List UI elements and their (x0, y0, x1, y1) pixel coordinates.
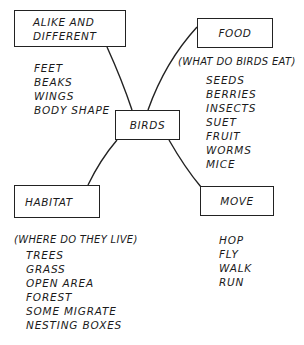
node-label: MOVE (220, 195, 254, 207)
node-label-line-1: ALIKE AND (33, 15, 95, 29)
edge-birds-move (169, 140, 201, 187)
list-item: FEET (34, 61, 110, 75)
list-item: WINGS (34, 89, 110, 103)
node-label: HABITAT (25, 196, 73, 208)
node-move: MOVE (200, 186, 274, 216)
node-alike-and-different: ALIKE AND DIFFERENT (14, 10, 126, 47)
alike-items-list: FEET BEAKS WINGS BODY SHAPE (34, 61, 110, 117)
list-item: BODY SHAPE (34, 103, 110, 117)
list-item: OPEN AREA (26, 276, 122, 290)
move-items-list: HOP FLY WALK RUN (219, 233, 252, 289)
list-item: WALK (219, 261, 252, 275)
list-item: FOREST (26, 290, 122, 304)
list-item: MICE (206, 157, 256, 171)
habitat-items-list: TREES GRASS OPEN AREA FOREST SOME MIGRAT… (26, 248, 122, 332)
node-label: FOOD (218, 27, 251, 39)
node-food: FOOD (197, 18, 273, 48)
center-label: BIRDS (130, 119, 165, 131)
list-item: WORMS (206, 143, 256, 157)
node-label-line-2: DIFFERENT (33, 29, 97, 43)
list-item: GRASS (26, 262, 122, 276)
list-item: SUET (206, 115, 256, 129)
edge-birds-food (148, 27, 197, 110)
list-item: BEAKS (34, 75, 110, 89)
edge-birds-habitat (88, 140, 117, 185)
food-items-list: SEEDS BERRIES INSECTS SUET FRUIT WORMS M… (206, 73, 256, 171)
food-subtitle: (WHAT DO BIRDS EAT) (178, 56, 296, 67)
edge-birds-alike (107, 47, 132, 110)
list-item: FLY (219, 247, 252, 261)
habitat-subtitle: (WHERE DO THEY LIVE) (14, 234, 138, 245)
list-item: FRUIT (206, 129, 256, 143)
node-habitat: HABITAT (14, 185, 100, 218)
list-item: RUN (219, 275, 252, 289)
list-item: INSECTS (206, 101, 256, 115)
list-item: SEEDS (206, 73, 256, 87)
list-item: HOP (219, 233, 252, 247)
list-item: NESTING BOXES (26, 318, 122, 332)
list-item: BERRIES (206, 87, 256, 101)
list-item: TREES (26, 248, 122, 262)
node-birds-center: BIRDS (115, 110, 180, 140)
list-item: SOME MIGRATE (26, 304, 122, 318)
